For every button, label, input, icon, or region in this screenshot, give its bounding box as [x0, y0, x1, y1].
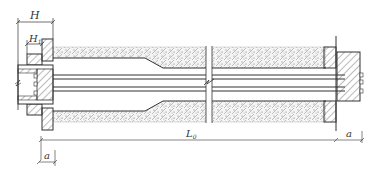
dimension-L0 — [39, 136, 338, 160]
label-L0: L0 — [185, 128, 197, 140]
label-a-right: a — [346, 128, 352, 139]
label-H: H — [29, 9, 40, 22]
label-H1: H1 — [28, 33, 42, 45]
anchor-diagram: H H1 L0 a a — [0, 0, 378, 179]
label-a-left: a — [44, 150, 50, 161]
left-coupler — [15, 60, 53, 110]
right-anchor-block — [337, 52, 363, 101]
right-bearing-plate — [324, 36, 336, 131]
tendons — [36, 75, 345, 91]
